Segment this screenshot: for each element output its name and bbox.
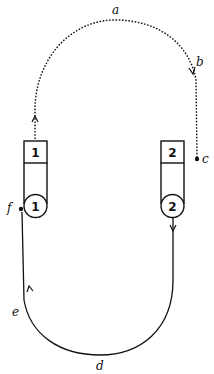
circle-1-label: 1 [31,200,39,214]
box-2-label: 2 [168,146,176,160]
point-f-dot [19,207,23,211]
upper-dotted-path [32,20,197,159]
box-1-label: 1 [31,146,39,160]
label-d: d [96,359,104,373]
label-c: c [202,152,209,166]
diagram-canvas: a b c d e f 1 2 1 2 [0,0,214,374]
arrow-up-icon [27,286,33,292]
label-b: b [196,55,204,69]
label-f: f [6,201,14,215]
label-a: a [112,3,119,17]
label-e: e [12,305,19,319]
circle-2-label: 2 [168,200,176,214]
lower-solid-path [22,212,176,355]
arrow-down-icon [189,67,195,74]
point-c-dot [195,157,199,161]
